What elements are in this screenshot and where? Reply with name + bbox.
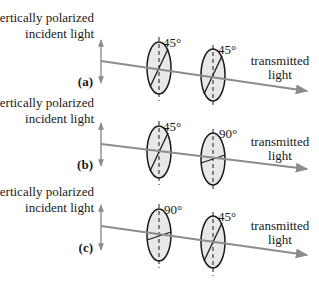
transmitted-light-label-line2: light [268, 148, 292, 163]
panel-c: vertically polarized incident light (c) … [0, 184, 310, 276]
filter-2-angle: 90° [219, 126, 237, 141]
polarization-diagram: vertically polarized incident light (a) … [0, 0, 319, 287]
filter-2-angle: 45° [218, 209, 236, 224]
transmitted-light-label-line2: light [268, 67, 292, 82]
transmitted-light-label-line1: transmitted [251, 218, 310, 233]
incident-light-label-line2: incident light [25, 200, 94, 215]
incident-light-label-line1: vertically polarized [0, 10, 94, 25]
panel-tag: (a) [78, 74, 93, 89]
incident-light-label-line1: vertically polarized [0, 95, 94, 110]
filter-2: 45° [201, 42, 236, 108]
incident-light-label-line2: incident light [25, 111, 94, 126]
panel-a: vertically polarized incident light (a) … [0, 10, 310, 108]
transmitted-light-label-line1: transmitted [251, 53, 310, 68]
panel-tag: (c) [79, 240, 93, 255]
panel-b: vertically polarized incident light (b) … [0, 95, 310, 192]
transmitted-light-label-line2: light [268, 232, 292, 247]
filter-1-angle: 90° [164, 202, 182, 217]
panel-tag: (b) [77, 157, 93, 172]
incident-light-label-line2: incident light [25, 26, 94, 41]
transmitted-light-label-line1: transmitted [251, 134, 310, 149]
filter-1-angle: 45° [163, 35, 181, 50]
incident-light-label-line1: vertically polarized [0, 184, 94, 199]
filter-1-angle: 45° [163, 119, 181, 134]
filter-2-angle: 45° [218, 42, 236, 57]
